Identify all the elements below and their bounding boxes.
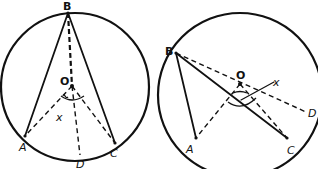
left-circle bbox=[1, 13, 149, 161]
left-label-X: x bbox=[55, 111, 63, 124]
left-radius-OA bbox=[25, 86, 72, 136]
right-label-B: B bbox=[165, 45, 173, 58]
left-label-C: C bbox=[110, 147, 118, 160]
right-figure: B O A C D x bbox=[158, 13, 318, 169]
right-label-D: D bbox=[308, 107, 316, 120]
right-point-C bbox=[285, 136, 288, 139]
left-figure: B O A C D x bbox=[1, 0, 149, 169]
left-label-O: O bbox=[60, 75, 69, 88]
left-radius-OC bbox=[72, 86, 115, 143]
left-point-A bbox=[23, 134, 26, 137]
left-label-A: A bbox=[18, 141, 27, 154]
right-center-point bbox=[238, 82, 242, 86]
inscribed-angle-diagrams: B O A C D x B O A C D x bbox=[0, 0, 318, 169]
left-angle-arc-small bbox=[64, 94, 68, 98]
right-point-B bbox=[174, 51, 177, 54]
right-label-X: x bbox=[272, 76, 280, 89]
right-label-O: O bbox=[236, 69, 245, 82]
left-label-B: B bbox=[63, 0, 71, 13]
left-line-OD bbox=[72, 86, 80, 155]
left-point-C bbox=[113, 141, 116, 144]
right-point-A bbox=[194, 136, 197, 139]
left-center-point bbox=[70, 84, 74, 88]
right-label-C: C bbox=[287, 144, 295, 157]
right-label-A: A bbox=[185, 143, 194, 156]
left-label-D: D bbox=[76, 158, 84, 169]
left-angle-arc bbox=[61, 96, 84, 100]
right-angle-arc-small bbox=[233, 92, 247, 94]
left-chord-BC bbox=[68, 13, 115, 143]
right-radius-OA bbox=[196, 84, 240, 138]
